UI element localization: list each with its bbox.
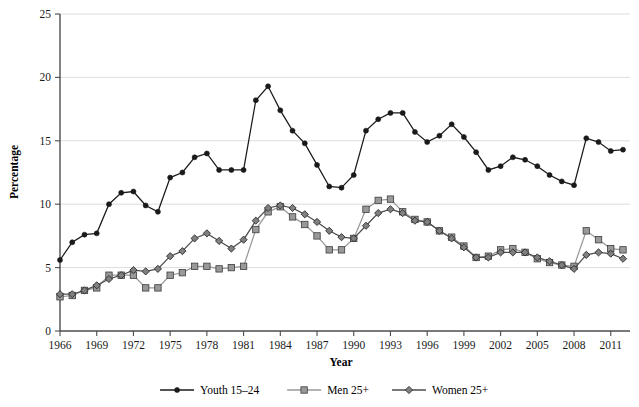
data-point <box>289 204 296 211</box>
data-point <box>229 167 234 172</box>
x-tick-label: 2005 <box>526 339 549 351</box>
x-axis-title: Year <box>330 356 353 368</box>
data-point <box>70 240 75 245</box>
data-point <box>216 266 222 272</box>
data-point <box>204 151 209 156</box>
legend-label: Women 25+ <box>432 384 488 396</box>
data-point <box>155 209 160 214</box>
x-tick-label: 2002 <box>489 339 512 351</box>
data-point <box>363 128 368 133</box>
x-tick-label: 1969 <box>85 339 108 351</box>
data-point <box>278 108 283 113</box>
y-tick-label: 5 <box>45 262 51 274</box>
line-chart: 0510152025 19661969197219751978198119841… <box>0 0 639 407</box>
chart-legend: Youth 15–24Men 25+Women 25+ <box>160 384 488 396</box>
data-point <box>375 197 381 203</box>
data-point <box>620 247 626 253</box>
data-point <box>498 164 503 169</box>
data-point <box>179 269 185 275</box>
x-tick-label: 1978 <box>195 339 218 351</box>
y-axis-title: Percentage <box>8 145 21 199</box>
x-tick-label: 2008 <box>563 339 586 351</box>
y-tick-label: 0 <box>45 325 51 337</box>
y-axis-ticks: 0510152025 <box>40 8 61 337</box>
y-tick-label: 25 <box>40 8 52 20</box>
data-point <box>449 122 454 127</box>
data-point <box>314 233 320 239</box>
data-point <box>106 202 111 207</box>
data-point <box>595 237 601 243</box>
x-tick-label: 1996 <box>416 339 439 351</box>
chart-container: 0510152025 19661969197219751978198119841… <box>0 0 639 407</box>
legend-marker <box>405 386 412 393</box>
data-point <box>302 221 308 227</box>
x-tick-label: 1966 <box>49 339 72 351</box>
data-point <box>301 211 308 218</box>
data-point <box>363 206 369 212</box>
data-point <box>327 184 332 189</box>
data-point <box>400 110 405 115</box>
data-point <box>547 173 552 178</box>
y-tick-label: 20 <box>40 71 52 83</box>
data-point <box>192 155 197 160</box>
data-point <box>412 129 417 134</box>
data-point <box>523 157 528 162</box>
data-point <box>339 185 344 190</box>
x-tick-label: 1981 <box>232 339 255 351</box>
data-point <box>143 203 148 208</box>
data-point <box>155 285 161 291</box>
legend-marker <box>301 387 307 393</box>
data-point <box>228 264 234 270</box>
data-point <box>608 148 613 153</box>
y-tick-label: 10 <box>40 198 52 210</box>
gridlines <box>60 14 630 268</box>
data-point <box>326 247 332 253</box>
data-point <box>388 110 393 115</box>
x-tick-label: 1993 <box>379 339 402 351</box>
legend-label: Youth 15–24 <box>200 384 259 396</box>
data-point <box>302 141 307 146</box>
data-point <box>621 147 626 152</box>
data-point <box>131 189 136 194</box>
data-point <box>142 285 148 291</box>
data-point <box>289 214 295 220</box>
data-point <box>474 150 479 155</box>
data-point <box>191 263 197 269</box>
data-point <box>315 162 320 167</box>
data-point <box>351 173 356 178</box>
data-point <box>82 232 87 237</box>
data-point <box>266 84 271 89</box>
x-tick-label: 1999 <box>452 339 475 351</box>
data-point <box>142 268 149 275</box>
data-point <box>572 183 577 188</box>
data-point <box>461 134 466 139</box>
x-tick-label: 1987 <box>306 339 329 351</box>
data-point <box>338 234 345 241</box>
data-point <box>253 226 259 232</box>
x-tick-label: 1972 <box>122 339 145 351</box>
data-point <box>216 237 223 244</box>
data-point <box>290 128 295 133</box>
data-point <box>510 155 515 160</box>
data-point <box>425 140 430 145</box>
data-point <box>203 230 210 237</box>
data-point <box>583 228 589 234</box>
axes <box>60 14 630 331</box>
data-point <box>241 167 246 172</box>
data-point <box>584 136 589 141</box>
x-tick-label: 2011 <box>599 339 622 351</box>
data-point <box>376 117 381 122</box>
data-point <box>119 190 124 195</box>
data-point <box>94 231 99 236</box>
data-point <box>486 167 491 172</box>
data-point <box>387 206 394 213</box>
y-tick-label: 15 <box>40 135 52 147</box>
x-tick-label: 1975 <box>159 339 182 351</box>
data-point <box>168 175 173 180</box>
data-point <box>387 196 393 202</box>
data-point <box>596 140 601 145</box>
data-point <box>595 249 602 256</box>
data-point <box>253 98 258 103</box>
data-point <box>338 247 344 253</box>
data-point <box>217 167 222 172</box>
